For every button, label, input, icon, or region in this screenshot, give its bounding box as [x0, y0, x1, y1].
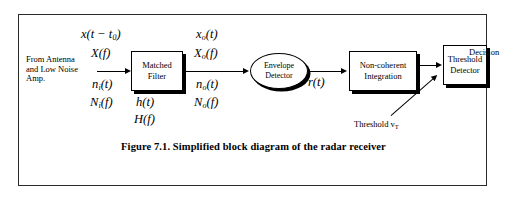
- envelope-output-label: r(t): [308, 75, 325, 89]
- connector-source-to-filter: [97, 71, 127, 72]
- envelope-detector-line-1: Envelope: [264, 61, 294, 71]
- envelope-detector-block[interactable]: Envelope Detector: [250, 53, 308, 89]
- figure-caption: Figure 7.1. Simplified block diagram of …: [19, 141, 488, 152]
- matched-filter-line-2: Filter: [148, 71, 166, 82]
- input-noise-time-label: ni(t): [92, 77, 112, 93]
- arrowhead-to-integration: [341, 68, 347, 74]
- integration-line-2: Integration: [364, 71, 401, 82]
- non-coherent-integration-block[interactable]: Non-coherent Integration: [349, 51, 417, 91]
- input-spectrum-label: X(f): [91, 46, 110, 60]
- arrowhead-to-envelope-detector: [243, 68, 249, 74]
- input-time-signal-label: x(t − t0): [81, 27, 121, 43]
- output-spectrum-label: Xo(f): [194, 46, 218, 62]
- impulse-response-label: h(t): [136, 95, 154, 109]
- connector-envelope-to-integration: [308, 71, 344, 72]
- threshold-value-label: Threshold vT: [354, 120, 399, 130]
- matched-filter-block[interactable]: Matched Filter: [131, 51, 183, 91]
- arrowhead-to-threshold-detector: [436, 62, 442, 68]
- envelope-detector-line-2: Detector: [265, 71, 293, 81]
- integration-line-1: Non-coherent: [360, 60, 407, 71]
- decision-label: Decision: [469, 48, 499, 58]
- input-noise-spectrum-label: Ni(f): [90, 95, 113, 111]
- figure-frame: From Antenna and Low Noise Amp. x(t − t0…: [18, 14, 487, 186]
- threshold-detector-line-2: Detector: [450, 65, 479, 76]
- source-line-3: Amp.: [26, 74, 78, 84]
- transfer-function-label: H(f): [134, 112, 155, 126]
- block-diagram: From Antenna and Low Noise Amp. x(t − t0…: [19, 15, 488, 187]
- output-noise-time-label: no(t): [196, 77, 218, 93]
- connector-filter-to-envelope: [183, 71, 246, 72]
- output-time-signal-label: xo(t): [196, 27, 218, 43]
- source-antenna-label: From Antenna and Low Noise Amp.: [26, 55, 78, 84]
- output-noise-spectrum-label: No(f): [194, 95, 218, 111]
- matched-filter-line-1: Matched: [142, 60, 172, 71]
